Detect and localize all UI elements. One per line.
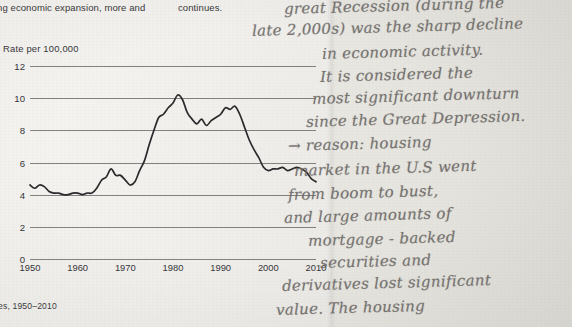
x-axis-tick-label: 1960 [67, 262, 88, 273]
handwritten-line: derivatives lost significant [282, 271, 492, 295]
handwritten-line: It is considered the [320, 64, 473, 86]
x-axis-tick-label: 1950 [20, 262, 41, 273]
y-axis-tick-label: 8 [20, 125, 25, 136]
handwritten-line: most significant downturn [312, 84, 520, 108]
y-axis-title: Rate per 100,000 [3, 43, 79, 54]
handwritten-annotation: great Recession (during thelate 2,000s) … [262, 0, 572, 327]
y-axis-tick-label: 12 [14, 61, 25, 72]
body-text-column-right: continues. [178, 2, 222, 13]
handwritten-line: securities and [320, 251, 432, 272]
handwritten-line: from boom to bust, [288, 182, 439, 204]
y-axis-tick-label: 10 [14, 93, 25, 104]
handwritten-line: → reason: housing [288, 133, 432, 155]
handwritten-line: market in the U.S went [294, 157, 477, 180]
handwritten-line: mortgage - backed [308, 228, 456, 250]
handwritten-line: value. The housing [276, 297, 426, 319]
x-axis-tick-label: 1970 [115, 262, 136, 273]
body-text-column-left: ng economic expansion, more and [0, 2, 145, 13]
y-axis-tick-label: 4 [20, 189, 25, 200]
handwritten-line: in economic activity. [322, 40, 484, 63]
y-axis-tick-label: 6 [20, 157, 25, 168]
handwritten-line: since the Great Depression. [306, 107, 526, 131]
handwritten-line: late 2,000s) was the sharp decline [252, 14, 524, 40]
x-axis-tick-label: 1980 [163, 262, 184, 273]
x-axis-tick-label: 1990 [210, 262, 231, 273]
handwritten-line: and large amounts of [284, 204, 452, 227]
figure-caption: ies, 1950–2010 [0, 301, 57, 311]
y-axis-tick-label: 2 [20, 221, 25, 232]
